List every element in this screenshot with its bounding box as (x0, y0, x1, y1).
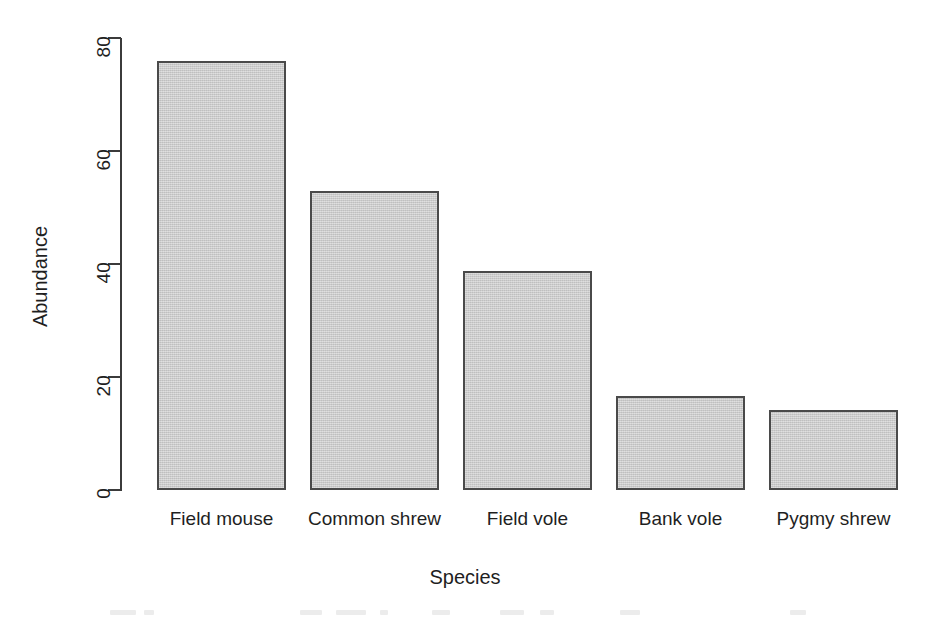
y-axis-tick-label: 20 (0, 364, 104, 386)
scan-artifact (0, 606, 930, 619)
x-axis-title: Species (0, 566, 930, 589)
bar (769, 410, 898, 490)
bar (463, 271, 592, 490)
y-axis-tick-label: 60 (0, 138, 104, 160)
y-axis-tick-label: 40 (0, 251, 104, 273)
bar (616, 396, 745, 490)
y-axis-tick-label: 80 (0, 25, 104, 47)
x-axis-category-label: Bank vole (602, 508, 759, 530)
bar-chart-figure: Abundance 020406080 Field mouseCommon sh… (0, 0, 930, 619)
x-axis-category-label: Pygmy shrew (755, 508, 912, 530)
plot-area: Abundance 020406080 Field mouseCommon sh… (0, 0, 930, 619)
bar (157, 61, 286, 490)
y-axis-title: Abundance (29, 197, 52, 357)
x-axis-category-label: Field vole (449, 508, 606, 530)
x-axis-category-label: Common shrew (296, 508, 453, 530)
x-axis-category-label: Field mouse (143, 508, 300, 530)
bar (310, 191, 439, 490)
y-axis-tick-label: 0 (0, 477, 104, 499)
